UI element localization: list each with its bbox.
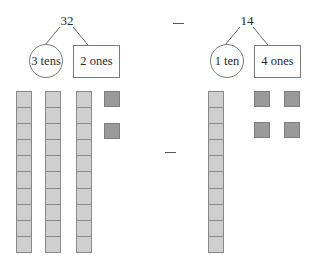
ten-rod xyxy=(16,91,32,253)
one-cube xyxy=(284,122,300,138)
one-cube xyxy=(254,91,270,107)
left-number-value: 32 xyxy=(52,13,82,29)
minus-sign-top xyxy=(173,23,184,24)
left-tens-circle: 3 tens xyxy=(29,44,63,78)
one-cube xyxy=(284,91,300,107)
one-cube xyxy=(104,91,120,107)
one-cube xyxy=(254,122,270,138)
one-cube xyxy=(104,123,120,139)
right-ones-box: 4 ones xyxy=(254,45,301,78)
ten-rod xyxy=(45,91,61,253)
left-ones-box: 2 ones xyxy=(73,45,120,78)
right-number-value: 14 xyxy=(232,13,262,29)
ten-rod xyxy=(208,91,224,253)
ten-rod xyxy=(76,91,92,253)
right-tens-circle: 1 ten xyxy=(210,44,244,78)
minus-sign-middle xyxy=(165,152,176,153)
